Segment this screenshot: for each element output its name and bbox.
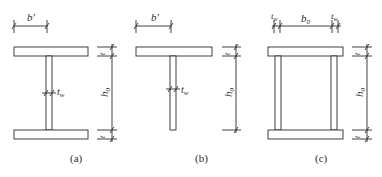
svg-text:tw: tw [271,11,278,22]
dimension-height-a: t t h0 [97,44,117,142]
web-b [170,56,176,130]
dimension-tw-b: tw [166,84,189,97]
left-web-c [275,56,281,130]
svg-text:b0: b0 [301,12,311,26]
cross-section-diagram: b' tw t t h0 (a) [0,0,382,177]
svg-text:h0: h0 [222,88,236,98]
dimension-height-c: t t h0 [352,44,372,142]
dimension-tw-a: tw [42,86,65,99]
svg-text:t: t [98,135,107,138]
top-flange-a [14,47,88,56]
flange-b [136,47,212,56]
caption-b: (b) [195,152,208,165]
svg-text:b': b' [151,11,160,23]
svg-text:t: t [353,52,362,55]
bottom-flange-a [14,130,88,139]
dimension-b-prime-b: b' [134,11,173,33]
dimension-b-prime-a: b' [12,11,49,33]
svg-text:t: t [353,135,362,138]
svg-text:t: t [98,52,107,55]
dimension-top-c: tw b0 tw [271,11,341,33]
figure-b-t-section: b' tw t h0 (b) [134,11,241,165]
caption-c: (c) [315,152,328,165]
svg-text:tw: tw [331,11,338,22]
caption-a: (a) [70,152,83,165]
svg-text:b': b' [27,11,36,23]
figure-c-box-section: tw b0 tw t t h0 (c) [268,11,372,165]
bottom-flange-c [268,130,343,139]
svg-text:tw: tw [181,84,189,97]
right-web-c [331,56,337,130]
svg-text:h0: h0 [353,88,367,98]
svg-text:tw: tw [57,86,65,99]
dimension-height-b: t h0 [222,44,241,133]
figure-a-i-section: b' tw t t h0 (a) [12,11,117,165]
top-flange-c [268,47,343,56]
svg-text:t: t [223,52,232,55]
svg-text:h0: h0 [98,88,112,98]
